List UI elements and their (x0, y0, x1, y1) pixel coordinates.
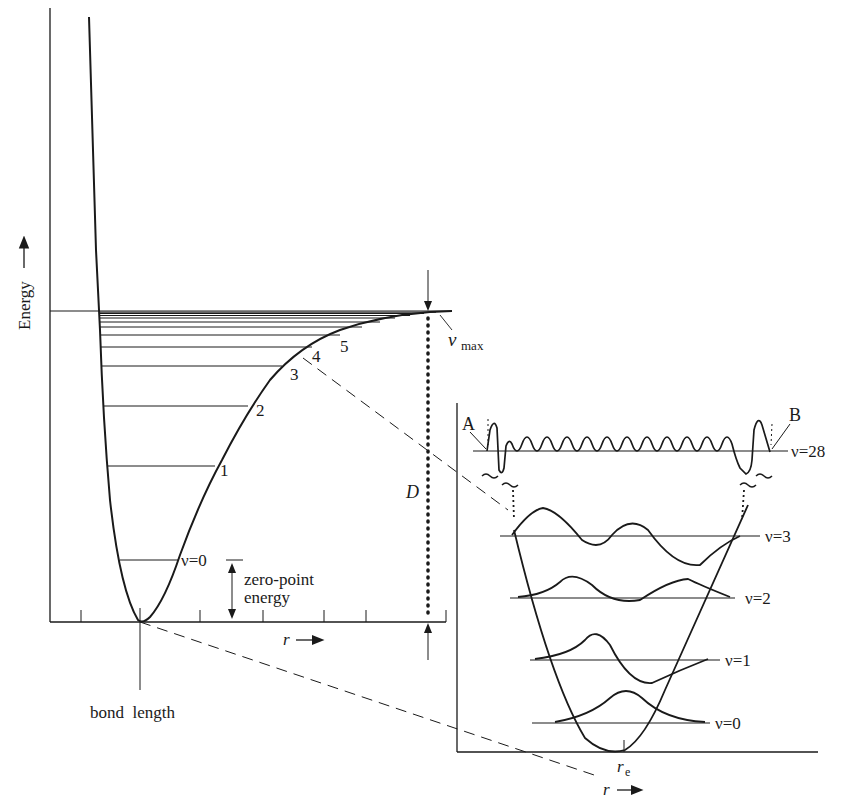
inset-x-axis-label-group: r (603, 780, 637, 799)
level-label-5: 5 (340, 337, 349, 356)
harmonic-potential-curve (514, 505, 748, 752)
vmax-pointer (440, 315, 452, 330)
inset-level-label-v28: ν=28 (791, 442, 825, 461)
level-label-3: 3 (290, 365, 299, 384)
zero-point-label-line1: zero-point (244, 570, 314, 589)
level-label-v0: ν=0 (181, 551, 207, 570)
wavefunction-v28 (487, 421, 770, 474)
inset-level-label-v3: ν=3 (765, 527, 791, 546)
dissociation-label: D (405, 482, 419, 502)
level-label-4: 4 (312, 347, 321, 366)
level-label-2: 2 (256, 401, 265, 420)
inset-levels (473, 451, 788, 723)
morse-potential-curve (89, 17, 452, 621)
projection-line-lower (140, 622, 600, 777)
wavefunctions (482, 419, 772, 722)
vibrational-levels (100, 312, 436, 560)
wavefunction-v1 (535, 634, 708, 683)
y-axis-label: Energy (15, 281, 34, 330)
vmax-subscript: max (461, 338, 484, 353)
wavefunction-v0 (555, 691, 705, 722)
inset-level-label-v1: ν=1 (725, 651, 751, 670)
pointer-a (470, 432, 486, 449)
equilibrium-label: r (617, 757, 624, 776)
bond-length-label: bond length (90, 703, 175, 722)
inset-level-label-v2: ν=2 (745, 589, 771, 608)
zero-point-label-line2: energy (244, 588, 290, 607)
inset-level-label-v0: ν=0 (715, 714, 741, 733)
turning-point-a-label: A (462, 414, 475, 434)
potential-energy-diagram: Energy ν=0 1 2 3 4 5 ν max D zero-point … (0, 0, 864, 812)
pointer-b (772, 424, 790, 449)
x-axis-label: r (283, 630, 290, 649)
vmax-label: ν (448, 329, 457, 350)
y-axis-label-group: Energy (15, 242, 34, 330)
x-axis-label-group: r (283, 630, 318, 649)
level-label-1: 1 (220, 461, 229, 480)
equilibrium-subscript: e (625, 765, 630, 779)
turning-point-b-label: B (789, 405, 801, 425)
main-plot: Energy ν=0 1 2 3 4 5 ν max D zero-point … (15, 8, 600, 777)
wavefunction-v2 (518, 577, 730, 601)
inset-plot: A B ν=28 ν=3 ν=2 ν=1 ν=0 r e r (457, 403, 825, 799)
wavefunction-v3 (512, 508, 740, 565)
inset-x-axis-label: r (603, 780, 610, 799)
